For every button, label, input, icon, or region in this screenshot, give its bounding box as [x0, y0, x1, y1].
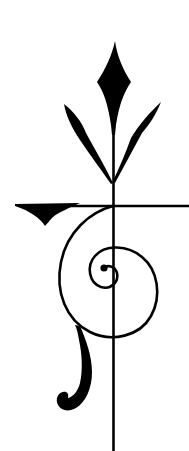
- spiral-curl-icon: [59, 206, 157, 337]
- decorative-emblem: [0, 0, 189, 451]
- diamond-finial-icon: [97, 41, 131, 135]
- right-leaf-icon: [113, 102, 161, 183]
- left-leaf-icon: [64, 104, 113, 184]
- spiral-center-dot: [100, 264, 107, 271]
- crossbar-wedge-icon: [15, 203, 80, 226]
- tail-curl-dot: [58, 394, 66, 402]
